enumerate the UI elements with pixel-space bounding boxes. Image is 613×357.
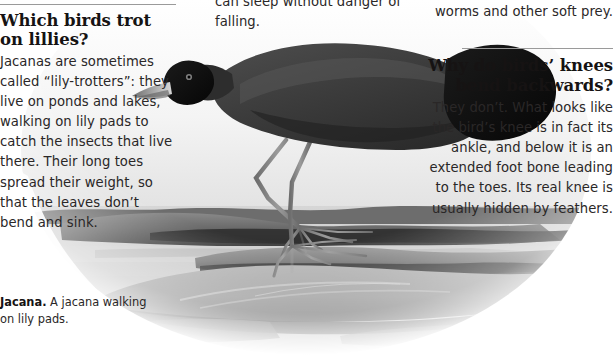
magazine-spread-page: Which birds trot on lillies? Jacanas are… <box>0 0 613 357</box>
body-text-sleep-without-falling: can sleep without danger of falling. <box>215 0 411 32</box>
heading-which-birds-trot-on-lillies: Which birds trot on lillies? <box>0 11 176 49</box>
figure-caption: Jacana. A jacana walking on lily pads. <box>0 294 150 328</box>
body-text-worms-and-soft-prey: worms and other soft prey. <box>412 2 613 22</box>
column-right: worms and other soft prey. Why do birds’… <box>412 0 613 219</box>
caption-lead: Jacana. <box>0 295 47 309</box>
column-middle: can sleep without danger of falling. <box>215 0 411 32</box>
column-rule-right <box>462 48 613 49</box>
column-left: Which birds trot on lillies? Jacanas are… <box>0 0 176 233</box>
heading-why-do-birds-knees-bend-backwards: Why do birds’ knees bend backwards? <box>412 56 613 95</box>
body-text-knees-are-ankles: They don’t. What looks like the bird’s k… <box>412 98 613 219</box>
body-text-lily-trotters: Jacanas are sometimes called “lily-trott… <box>0 52 176 233</box>
column-rule-left <box>0 4 176 5</box>
